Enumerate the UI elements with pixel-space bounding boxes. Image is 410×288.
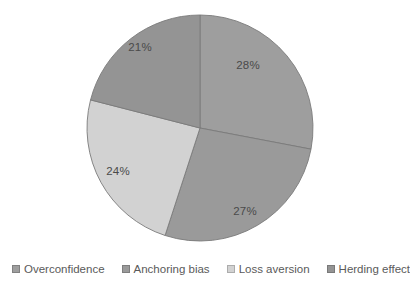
pie-slice-label: 21%: [128, 41, 152, 53]
legend-item[interactable]: Anchoring bias: [122, 263, 210, 275]
legend-swatch-icon: [12, 265, 20, 273]
pie-slice-label: 28%: [236, 59, 260, 71]
legend-swatch-icon: [327, 265, 335, 273]
legend-item-label: Overconfidence: [24, 263, 105, 275]
chart-legend: OverconfidenceAnchoring biasLoss aversio…: [0, 256, 394, 282]
pie-slice[interactable]: [200, 15, 313, 149]
legend-item[interactable]: Overconfidence: [12, 263, 105, 275]
pie-plot-area: 28%27%24%21%: [0, 0, 394, 252]
legend-item-label: Anchoring bias: [134, 263, 210, 275]
pie-slices: [87, 15, 313, 241]
legend-swatch-icon: [122, 265, 130, 273]
legend-item-label: Herding effect: [339, 263, 410, 275]
pie-svg: 28%27%24%21%: [0, 0, 394, 252]
legend-swatch-icon: [227, 265, 235, 273]
legend-item[interactable]: Loss aversion: [227, 263, 310, 275]
legend-item-label: Loss aversion: [239, 263, 310, 275]
pie-slice-label: 27%: [233, 205, 257, 217]
legend-item[interactable]: Herding effect: [327, 263, 410, 275]
pie-slice-label: 24%: [106, 165, 130, 177]
